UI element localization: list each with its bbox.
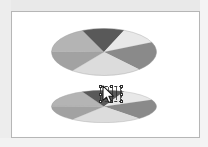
pie-chart-original-graphic[interactable]: Segment A 18%Segment B 13%Segment C 12%S… — [51, 28, 157, 76]
screenshot-canvas: Segment A 18%Segment B 13%Segment C 12%S… — [0, 0, 208, 147]
pie-chart-original[interactable]: Segment A 18%Segment B 13%Segment C 12%S… — [51, 28, 157, 76]
resize-handle-nw[interactable] — [99, 85, 102, 88]
pie-chart-resized-graphic[interactable]: Segment A 18%Segment B 13%Segment C 12%S… — [51, 90, 157, 123]
resize-handle-n[interactable] — [110, 85, 113, 88]
canvas-gutter-top — [0, 0, 208, 11]
canvas-gutter-bottom — [0, 138, 208, 147]
canvas-gutter-left — [0, 0, 11, 147]
chart-document-frame: Segment A 18%Segment B 13%Segment C 12%S… — [11, 11, 200, 138]
chart-stage: Segment A 18%Segment B 13%Segment C 12%S… — [12, 12, 199, 137]
resize-handle-ne[interactable] — [120, 85, 123, 88]
canvas-gutter-right — [200, 0, 208, 147]
pie-chart-resized[interactable]: Segment A 18%Segment B 13%Segment C 12%S… — [51, 90, 157, 123]
